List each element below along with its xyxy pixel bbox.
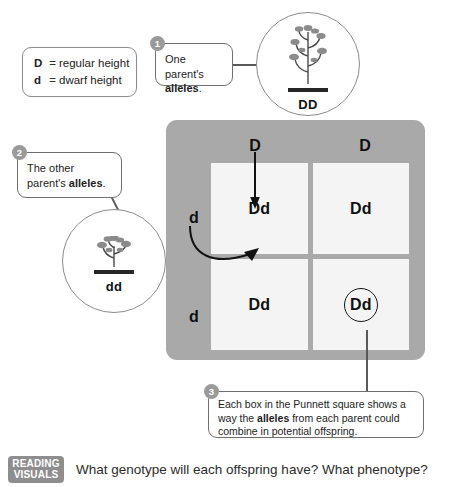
punnett-cell-genotype: Dd (344, 288, 378, 322)
callout-number-badge-3: 3 (204, 384, 219, 399)
callout-text-before: One parent's (165, 53, 204, 80)
allele-key-box: D = regular height d = dwarf height (22, 47, 137, 97)
callout-text-after: . (103, 177, 106, 189)
reading-visuals-badge: READING VISUALS (8, 456, 64, 483)
soil-line (288, 88, 328, 92)
parent-genotype-label: DD (298, 97, 317, 112)
punnett-cell: Dd (313, 163, 410, 254)
reading-visuals-footer: READING VISUALS What genotype will each … (0, 452, 452, 487)
allele-curved-arrow-icon (186, 222, 266, 270)
callout-leader-line-1 (233, 64, 257, 66)
callout-number-badge-1: 1 (150, 36, 165, 51)
callout-punnett-explanation: Each box in the Punnett square shows a w… (208, 391, 424, 438)
callout-other-parent-alleles: The other parent's alleles. (17, 152, 122, 198)
punnett-column-header: D (353, 137, 377, 155)
callout-text-bold: alleles (257, 412, 289, 424)
tall-pea-plant-icon: DD (257, 24, 359, 112)
reading-visuals-question: What genotype will each offspring have? … (76, 462, 428, 477)
callout-one-parent-alleles: One parent's alleles. (155, 43, 233, 86)
allele-symbol: D (34, 55, 46, 72)
punnett-cell: Dd (211, 259, 308, 350)
parent-circle-tall: DD (256, 12, 360, 116)
reading-badge-line-two: VISUALS (8, 469, 64, 480)
allele-symbol: d (34, 72, 46, 89)
punnett-cell-highlighted: Dd (313, 259, 410, 350)
dwarf-pea-plant-icon: dd (63, 236, 165, 294)
tall-pea-plant-illustration (285, 24, 331, 86)
punnett-row-header: d (184, 308, 204, 326)
punnett-cell-genotype: Dd (249, 296, 270, 314)
soil-line (94, 270, 134, 274)
allele-key-row: D = regular height (34, 55, 136, 72)
callout-text-bold: alleles (165, 82, 199, 94)
dwarf-pea-plant-illustration (92, 236, 136, 268)
allele-down-arrow-icon (248, 152, 262, 210)
reading-badge-line-one: READING (8, 458, 64, 469)
equals-sign: = (46, 72, 59, 89)
callout-leader-line-3 (366, 330, 368, 392)
diagram-canvas: D = regular height d = dwarf height 1 On… (0, 0, 452, 487)
callout-text-before: The other parent's (27, 162, 74, 189)
allele-meaning: regular height (59, 55, 129, 72)
callout-number-badge-2: 2 (12, 145, 27, 160)
punnett-cell-genotype: Dd (350, 200, 371, 218)
callout-text-bold: alleles (69, 177, 103, 189)
callout-text-after: . (199, 82, 202, 94)
allele-key-row: d = dwarf height (34, 72, 136, 89)
equals-sign: = (46, 55, 59, 72)
parent-circle-dwarf: dd (62, 209, 166, 313)
parent-genotype-label: dd (106, 279, 122, 294)
allele-meaning: dwarf height (59, 72, 122, 89)
